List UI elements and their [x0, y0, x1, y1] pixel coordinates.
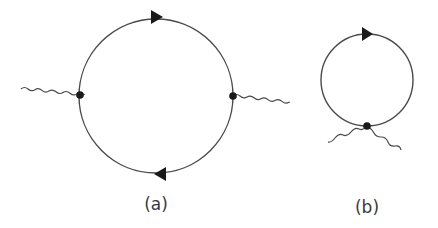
photon-line-right: [233, 95, 289, 104]
diagram-a: [21, 10, 289, 181]
fermion-loop-a: [79, 19, 233, 173]
photon-line-lower-right: [367, 126, 401, 150]
arrow-right-icon: [151, 10, 163, 24]
feynman-diagram-canvas: [0, 0, 438, 228]
label-a: (a): [144, 194, 168, 214]
arrow-left-icon: [154, 167, 166, 181]
arrow-right-icon: [362, 27, 373, 41]
vertex-left: [76, 91, 84, 99]
photon-line-left: [21, 88, 84, 96]
vertex-bottom: [363, 122, 371, 130]
vertex-right: [229, 92, 237, 100]
diagram-b: [321, 27, 413, 150]
photon-line-lower-left: [328, 126, 367, 142]
fermion-loop-b: [321, 34, 413, 126]
label-b: (b): [355, 197, 379, 217]
